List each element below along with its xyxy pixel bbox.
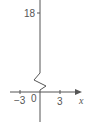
- x-tick-label-neg3: −3: [14, 95, 26, 106]
- chart-plot: 18 −3 0 3 x: [0, 0, 90, 132]
- x-tick-label-3: 3: [57, 96, 63, 107]
- x-axis-label: x: [78, 95, 84, 106]
- y-axis-break: [34, 73, 46, 90]
- x-tick-label-0: 0: [31, 93, 37, 104]
- y-tick-label-18: 18: [24, 8, 36, 19]
